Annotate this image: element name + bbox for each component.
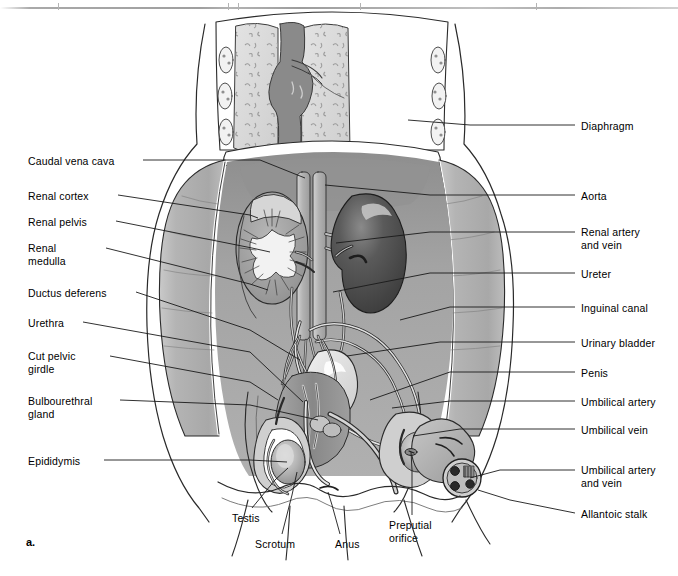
leader-bulbourethral-gland xyxy=(120,400,318,420)
figure-page: Caudal vena cavaRenal cortexRenal pelvis… xyxy=(0,0,678,576)
leader-caudal-vena-cava xyxy=(143,160,305,178)
leader-renal-pelvis xyxy=(116,221,270,252)
leader-renal-medulla xyxy=(106,248,268,290)
leader-epididymis xyxy=(104,460,287,462)
leader-umbilical-artery xyxy=(392,401,575,408)
leader-urinary-bladder xyxy=(347,342,575,356)
leader-cut-pelvic-girdle xyxy=(110,356,278,400)
leader-lines xyxy=(0,0,678,576)
leader-penis xyxy=(370,372,575,400)
leader-ductus-deferens xyxy=(136,292,300,360)
leader-testis xyxy=(252,468,288,508)
leader-inguinal-canal xyxy=(400,307,575,320)
leader-aorta xyxy=(325,185,575,195)
leader-renal-artery-and-vein xyxy=(336,232,575,243)
leader-urethra xyxy=(83,322,303,402)
leader-diaphragm xyxy=(408,120,575,125)
leader-scrotum xyxy=(282,472,297,534)
leader-ureter xyxy=(333,273,575,292)
leader-allantoic-stalk xyxy=(478,490,575,513)
leader-anus xyxy=(328,492,340,534)
leader-preputial-orifice xyxy=(411,452,412,515)
leader-umbilical-vein xyxy=(413,429,575,436)
leader-renal-cortex xyxy=(118,195,258,218)
leader-umbilical-artery-and-vein xyxy=(470,470,575,478)
